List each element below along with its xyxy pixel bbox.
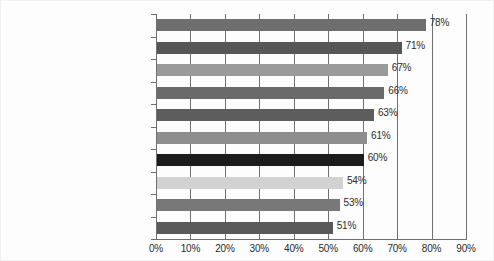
bar [157,132,367,144]
x-axis-tick-labels: 0%10%20%30%40%50%60%70%80%90% [1,243,494,259]
bar-value-label: 60% [368,152,387,163]
bar-value-label: 78% [430,17,449,28]
bar-row: 61% [156,127,466,150]
bar-value-label: 61% [371,130,390,141]
y-tick-mark [151,239,156,240]
bar-row: 60% [156,149,466,172]
bar-row: 66% [156,82,466,105]
chart-frame: 78%71%67%66%63%61%60%54%53%51% Technolog… [0,0,494,261]
bar-value-label: 63% [378,107,397,118]
bar-row: 63% [156,104,466,127]
x-axis-line [156,239,467,240]
bar-value-label: 53% [344,197,363,208]
bar [157,177,343,189]
bar-value-label: 71% [406,40,425,51]
bar-row: 53% [156,194,466,217]
bar-row: 51% [156,217,466,240]
bar [157,42,402,54]
bar-row: 54% [156,172,466,195]
bar [157,199,340,211]
bar [157,64,388,76]
bar [157,222,333,234]
bar-row: 71% [156,37,466,60]
bar [157,19,426,31]
bar-value-label: 67% [392,62,411,73]
plot-area: 78%71%67%66%63%61%60%54%53%51% Technolog… [156,14,466,239]
gridline-90pct [466,14,467,239]
bar-value-label: 51% [337,220,356,231]
x-tick-label: 90% [446,243,486,254]
bar-row: 78% [156,14,466,37]
bar-value-label: 54% [347,175,366,186]
bar [157,109,374,121]
bar-row: 67% [156,59,466,82]
bar [157,154,364,166]
bar [157,87,384,99]
bar-value-label: 66% [388,85,407,96]
